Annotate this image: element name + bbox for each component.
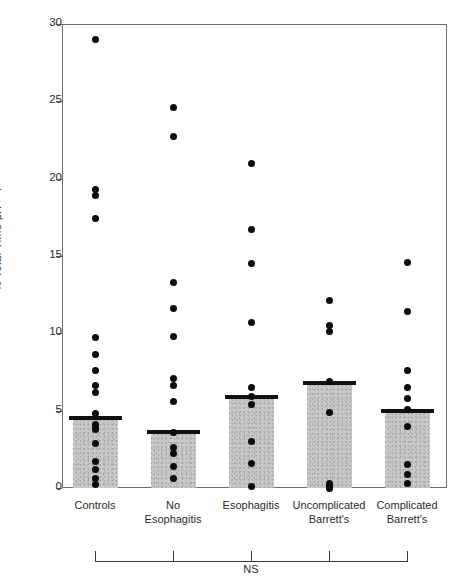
x-label-line: Complicated [347,498,459,512]
data-point [92,458,99,465]
significance-tick-2 [251,551,252,562]
group-2 [229,24,274,488]
group-3 [307,24,352,488]
data-point [326,480,333,492]
data-point [248,260,255,267]
y-tick-label-0: 0 [32,481,62,493]
data-point [170,305,177,312]
data-point [92,466,99,473]
y-tick-label-15: 15 [32,249,62,261]
group-0 [73,24,118,488]
chart-figure: % Total Time pH > 7 051015202530 Control… [0,0,459,587]
data-point [92,192,99,199]
data-point [170,382,177,389]
data-point [170,104,177,111]
y-tick-label-10: 10 [32,326,62,338]
significance-tick-3 [329,551,330,562]
group-4 [385,24,430,488]
data-point [326,297,333,304]
y-tick-label-25: 25 [32,94,62,106]
significance-label: NS [45,563,457,575]
data-point [248,160,255,167]
data-point [248,226,255,233]
data-point [170,375,177,382]
data-point [404,259,411,266]
group-1 [151,24,196,488]
data-point [92,351,99,358]
data-point [404,480,411,487]
y-tick-label-5: 5 [32,404,62,416]
data-point [248,384,255,391]
data-point [92,367,99,374]
data-point [92,440,99,447]
data-point [248,483,255,490]
x-label-line: Barrett's [347,512,459,526]
data-point [92,410,99,417]
data-point [326,378,333,385]
data-point [92,421,99,433]
data-point [248,319,255,326]
y-tick-label-30: 30 [32,17,62,29]
significance-tick-0 [95,551,96,562]
x-axis-label-4: ComplicatedBarrett's [347,498,459,526]
data-point [404,384,411,391]
data-point [92,389,99,396]
data-point [404,406,411,413]
data-point [248,460,255,467]
data-point [248,401,255,408]
data-point [248,438,255,445]
data-point [170,333,177,340]
data-point [404,308,411,315]
data-point [170,463,177,470]
significance-tick-4 [407,551,408,562]
data-point [170,475,177,482]
bar-3 [307,383,352,488]
data-point [92,36,99,43]
data-point [170,133,177,140]
data-point [92,481,99,488]
data-point [92,334,99,341]
data-point [404,471,411,478]
data-point [326,328,333,335]
data-point [404,423,411,430]
y-tick-label-20: 20 [32,172,62,184]
data-point [404,367,411,374]
data-point [170,279,177,286]
data-point [248,393,255,400]
data-point [170,429,177,436]
data-point [170,398,177,405]
data-point [326,409,333,416]
data-point [404,395,411,402]
significance-bracket [95,551,407,562]
data-point [92,215,99,222]
significance-tick-1 [173,551,174,562]
x-label-line: Esophagitis [113,512,233,526]
data-point [404,461,411,468]
